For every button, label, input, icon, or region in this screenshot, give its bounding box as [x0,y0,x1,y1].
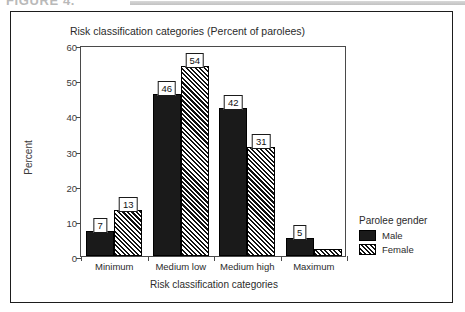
bar-minimum-female[interactable] [114,210,142,256]
x-axis-label: Risk classification categories [81,279,347,290]
legend-swatch-female-icon [359,244,376,255]
legend-item-male[interactable]: Male [359,230,451,241]
x-tick-mark-3 [281,256,282,261]
x-tick-mark-end [347,256,348,261]
chart-legend: Parolee gender Male Female [359,215,451,258]
legend-item-female[interactable]: Female [359,244,451,255]
y-tick-label-10: 10 [57,217,77,228]
bar-value-maximum-male: 5 [293,225,306,240]
y-tick-mark-40 [76,117,81,118]
figure-frame: Risk classification categories (Percent … [10,11,453,303]
bar-medium-low-male[interactable] [153,94,181,256]
bar-medium-high-female[interactable] [247,147,275,256]
legend-label-male: Male [382,230,403,241]
bar-value-minimum-male: 7 [94,218,107,233]
legend-swatch-male-icon [359,230,376,241]
figure-caption-rule [130,1,465,5]
legend-title: Parolee gender [359,215,451,226]
bar-value-medium-low-male: 46 [157,81,176,96]
x-category-label-medium-high: Medium high [220,261,274,272]
y-tick-mark-20 [76,188,81,189]
bar-medium-high-male[interactable] [219,108,247,256]
bar-value-minimum-female: 13 [119,197,138,212]
x-category-label-minimum: Minimum [95,261,134,272]
bar-value-medium-high-male: 42 [224,95,243,110]
y-tick-label-50: 50 [57,77,77,88]
y-tick-mark-60 [76,47,81,48]
y-tick-label-0: 0 [57,253,77,264]
figure-caption-text: FIGURE 4. [6,0,75,8]
x-tick-mark-1 [148,256,149,261]
y-tick-label-30: 30 [57,147,77,158]
bar-value-medium-low-female: 54 [185,53,204,68]
x-category-label-maximum: Maximum [293,261,334,272]
bar-minimum-male[interactable] [86,231,114,256]
bar-maximum-male[interactable] [286,238,314,256]
y-axis-label: Percent [23,112,34,202]
x-tick-mark-0 [81,256,82,261]
legend-label-female: Female [382,244,414,255]
bar-maximum-female[interactable] [314,249,342,256]
x-category-label-medium-low: Medium low [155,261,206,272]
y-tick-mark-30 [76,153,81,154]
y-tick-mark-50 [76,82,81,83]
chart-title: Risk classification categories (Percent … [11,25,364,37]
x-tick-mark-2 [214,256,215,261]
y-tick-mark-10 [76,223,81,224]
figure-caption-strip: FIGURE 4. [0,0,465,9]
bar-medium-low-female[interactable] [181,66,209,256]
bar-value-medium-high-female: 31 [252,134,271,149]
y-tick-label-40: 40 [57,112,77,123]
y-tick-label-20: 20 [57,182,77,193]
plot-area: Percent 0102030405060 713465442315 Minim… [80,46,346,257]
y-tick-label-60: 60 [57,42,77,53]
